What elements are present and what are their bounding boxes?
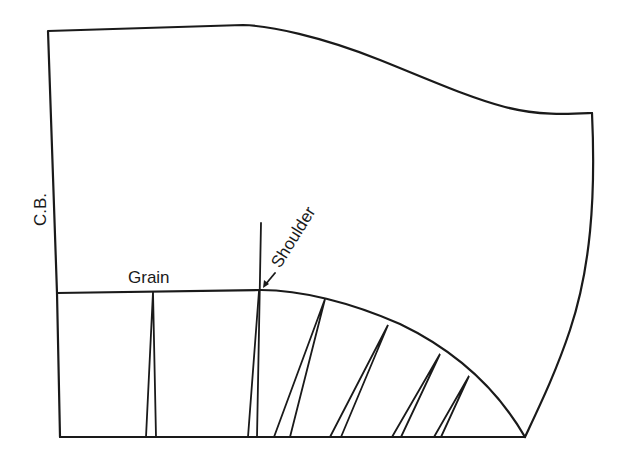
pattern-right-edge [525,113,593,437]
grain-label: Grain [128,268,170,287]
pattern-diagram: C.B. Grain Shoulder [0,0,626,467]
slash-wedge-5 [392,354,440,437]
grain-line [57,290,261,293]
pattern-outline-upper [48,25,592,293]
slash-wedge-4 [330,325,388,437]
slash-wedge-1 [146,292,156,437]
center-back-label: C.B. [31,193,50,226]
slash-wedge-3 [274,299,325,437]
shoulder-reference-line [257,223,261,437]
slash-wedge-6 [434,376,469,437]
shoulder-label: Shoulder [267,203,319,271]
center-back-lower-edge [57,293,60,437]
